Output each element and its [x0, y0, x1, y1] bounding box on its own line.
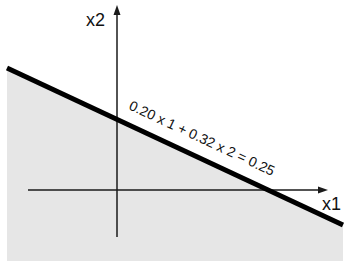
x-axis-label: x1	[322, 194, 341, 214]
diagram-canvas: x2 x1 0.20 x 1 + 0.32 x 2 = 0.25	[0, 0, 350, 267]
y-axis-label: x2	[86, 10, 105, 30]
feasible-region	[7, 68, 343, 261]
x-axis-arrow-icon	[318, 187, 328, 194]
y-axis-arrow-icon	[114, 5, 121, 15]
